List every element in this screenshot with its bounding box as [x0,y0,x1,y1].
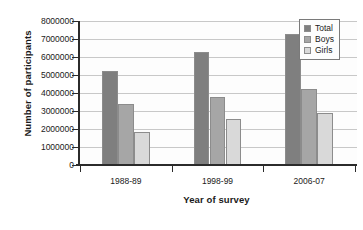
legend-label: Total [315,23,333,34]
y-axis-tick-label: 2000000 [16,125,74,134]
y-axis-tick-label: 4000000 [16,89,74,98]
bar-boys-2006-07 [301,89,317,166]
bar-boys-1988-89 [118,104,134,165]
y-axis-tick-label: 3000000 [16,107,74,116]
x-axis-title: Year of survey [78,194,355,205]
y-axis-tick [72,147,78,148]
x-axis-tick-label: 1998-99 [202,176,233,186]
legend-item-girls: Girls [304,45,334,56]
bar-boys-1998-99 [210,97,226,165]
y-axis-tick-label: 6000000 [16,53,74,62]
y-axis-tick-label: 1000000 [16,143,74,152]
x-axis-tick-labels: 1988-891998-992006-07 [80,176,355,190]
y-axis-tick [72,75,78,76]
legend-swatch-icon [304,36,311,43]
bar-total-1998-99 [194,52,210,165]
x-axis-tick-label: 2006-07 [294,176,325,186]
legend-swatch-icon [304,25,311,32]
bar-girls-1988-89 [134,132,150,165]
y-axis-tick-label: 5000000 [16,71,74,80]
y-axis-tick [72,93,78,94]
bar-group [102,21,150,165]
legend-label: Girls [315,45,332,56]
legend-item-total: Total [304,23,334,34]
y-axis-tick [72,57,78,58]
legend: TotalBoysGirls [299,19,340,60]
bar-girls-1998-99 [226,119,242,165]
legend-swatch-icon [304,47,311,54]
x-axis-tick-label: 1988-89 [110,176,141,186]
y-axis-tick-label: 0 [16,161,74,170]
y-axis-tick [72,39,78,40]
x-axis-line [76,164,357,166]
legend-label: Boys [315,34,334,45]
y-axis-tick [72,21,78,22]
legend-item-boys: Boys [304,34,334,45]
x-axis-tick [80,166,81,172]
bar-total-1988-89 [102,71,118,165]
bar-chart: Number of participants 80000007000000600… [0,0,363,230]
x-axis-tick [263,166,264,172]
y-axis-tick [72,111,78,112]
y-axis-tick-label: 8000000 [16,17,74,26]
y-axis-tick-labels: 8000000700000060000005000000400000030000… [16,14,74,172]
bar-girls-2006-07 [317,113,333,165]
bar-group [194,21,242,165]
x-axis-tick [172,166,173,172]
y-axis-tick-label: 7000000 [16,35,74,44]
y-axis-tick [72,129,78,130]
x-axis-tick [355,166,356,172]
